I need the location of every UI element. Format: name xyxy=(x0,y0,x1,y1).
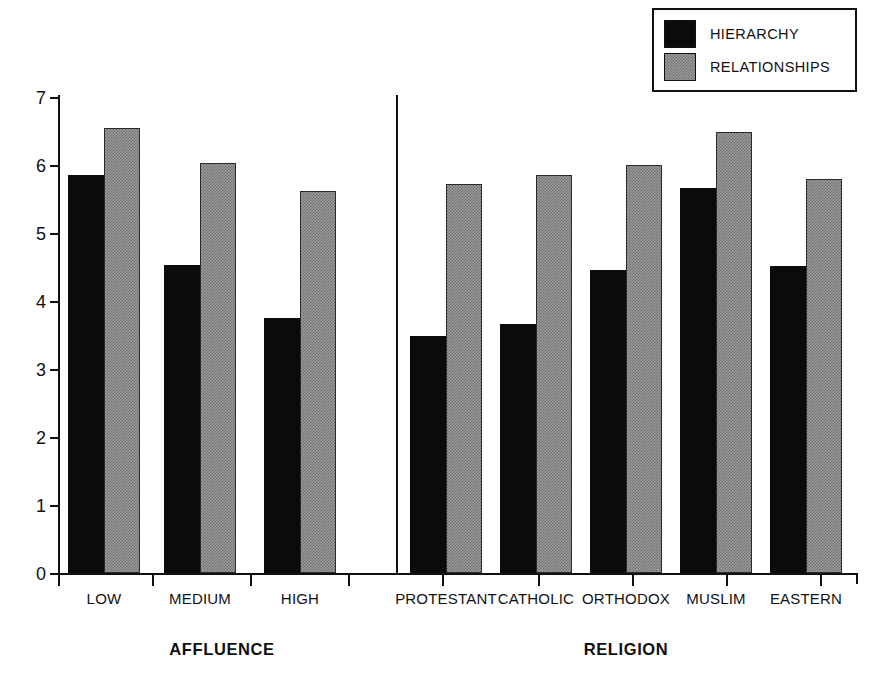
bar-hierarchy-low xyxy=(68,175,104,573)
x-tick-7 xyxy=(726,575,728,586)
x-tick-8 xyxy=(820,575,822,586)
x-tick-3 xyxy=(348,575,350,586)
x-tick-6 xyxy=(632,575,634,586)
bar-relationships-high xyxy=(300,191,336,573)
bar-hierarchy-orthodox xyxy=(590,270,626,573)
bar-relationships-muslim xyxy=(716,132,752,573)
group-label-affluence: AFFLUENCE xyxy=(142,640,302,659)
bar-relationships-catholic xyxy=(536,175,572,573)
x-tick-0 xyxy=(58,575,60,586)
x-tick-1 xyxy=(152,575,154,586)
x-label-eastern: EASTERN xyxy=(746,590,866,607)
bar-relationships-medium xyxy=(200,163,236,573)
bar-chart: HIERARCHY RELATIONSHIPS 0 1 2 3 4 5 6 7 xyxy=(0,0,895,676)
x-tick-2 xyxy=(250,575,252,586)
bar-relationships-low xyxy=(104,128,140,573)
bar-hierarchy-eastern xyxy=(770,266,806,573)
bar-hierarchy-medium xyxy=(164,265,200,573)
bar-hierarchy-protestant xyxy=(410,336,446,573)
y-tick-0 xyxy=(50,573,58,575)
bar-hierarchy-catholic xyxy=(500,324,536,573)
bar-hierarchy-muslim xyxy=(680,188,716,573)
x-axis-line xyxy=(58,573,858,575)
bar-relationships-eastern xyxy=(806,179,842,573)
bars-layer xyxy=(0,0,895,573)
x-axis-end-tick xyxy=(856,573,858,584)
bar-relationships-protestant xyxy=(446,184,482,573)
bar-relationships-orthodox xyxy=(626,165,662,573)
bar-hierarchy-high xyxy=(264,318,300,573)
group-label-religion: RELIGION xyxy=(546,640,706,659)
x-label-high: HIGH xyxy=(240,590,360,607)
x-tick-4 xyxy=(442,575,444,586)
x-tick-5 xyxy=(538,575,540,586)
